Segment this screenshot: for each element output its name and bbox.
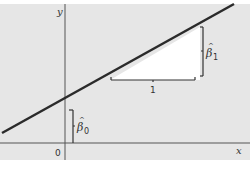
plot-background [0,4,250,160]
x-axis-label: x [236,145,242,156]
run-label: 1 [150,85,156,95]
diagram-canvas: y x 0 1 β ^ 1 β ^ 0 [0,0,250,171]
origin-label: 0 [55,148,61,158]
y-axis-label: y [56,6,63,17]
slope-subscript: 1 [213,53,218,62]
intercept-subscript: 0 [84,127,89,136]
intercept-hat: ^ [79,116,85,124]
slope-hat: ^ [208,42,214,50]
regression-diagram: y x 0 1 β ^ 1 β ^ 0 [0,0,250,171]
